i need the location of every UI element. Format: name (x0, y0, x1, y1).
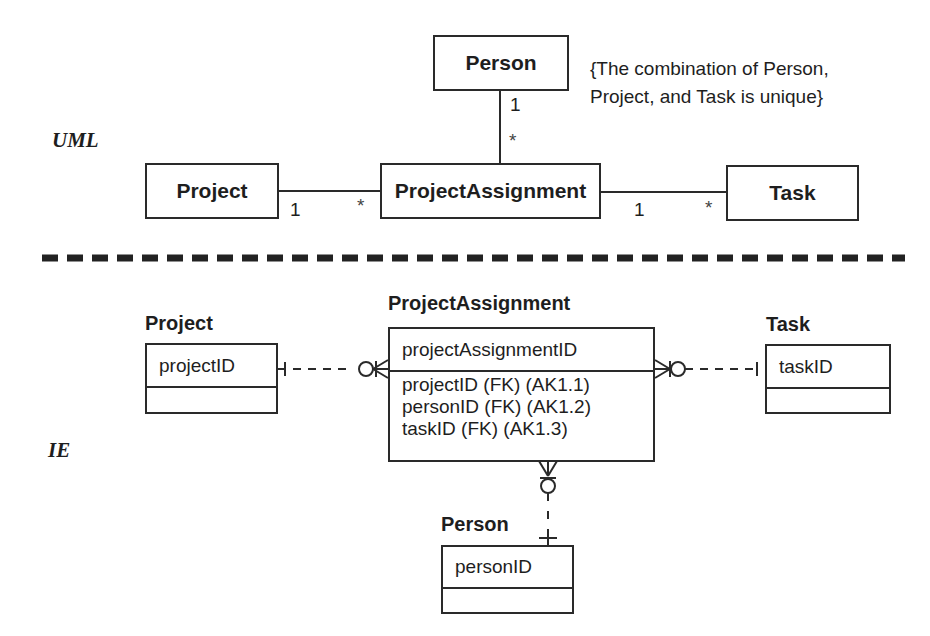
ie-project-assignment-entity[interactable]: projectAssignmentID projectID (FK) (AK1.… (388, 327, 655, 462)
ie-person-pk: personID (443, 547, 572, 589)
uml-constraint-note: {The combination of Person, Project, and… (590, 55, 829, 111)
uml-person-name: Person (465, 51, 536, 75)
ie-task-pk: taskID (767, 346, 889, 389)
ie-task-entity[interactable]: taskID (765, 344, 891, 414)
uml-person-class[interactable]: Person (433, 35, 569, 91)
uml-project-assignment-class[interactable]: ProjectAssignment (380, 163, 601, 219)
uml-project-class[interactable]: Project (145, 163, 279, 219)
ie-person-title: Person (441, 513, 509, 536)
uml-project-assignment-name: ProjectAssignment (395, 179, 586, 203)
uml-project-name: Project (176, 179, 247, 203)
mult-task-end: * (705, 197, 712, 219)
ie-task-title: Task (766, 313, 810, 336)
constraint-line-1: {The combination of Person, (590, 55, 829, 83)
mult-project-pa-end: * (357, 195, 364, 217)
diagram-canvas: UML IE Person Project ProjectAssignment … (0, 0, 930, 636)
mult-person-end: 1 (510, 94, 521, 116)
mult-pa-task-end: 1 (634, 199, 645, 221)
ie-project-assignment-pk: projectAssignmentID (390, 329, 653, 372)
uml-task-name: Task (769, 181, 815, 205)
ie-project-assignment-attributes: projectID (FK) (AK1.1) personID (FK) (AK… (390, 370, 653, 460)
ie-project-title: Project (145, 312, 213, 335)
mult-person-pa-end: * (509, 130, 516, 152)
uml-task-class[interactable]: Task (726, 165, 859, 221)
ie-person-entity[interactable]: personID (441, 545, 574, 614)
mult-project-end: 1 (290, 199, 301, 221)
constraint-line-2: Project, and Task is unique} (590, 83, 829, 111)
ie-pa-task-relationship (655, 360, 757, 378)
ie-project-entity[interactable]: projectID (145, 343, 278, 414)
ie-attr-person-id: personID (FK) (AK1.2) (402, 396, 653, 418)
ie-attr-task-id: taskID (FK) (AK1.3) (402, 418, 653, 440)
ie-project-assignment-title: ProjectAssignment (388, 292, 570, 315)
ie-project-pk: projectID (147, 345, 276, 388)
ie-project-pa-relationship (278, 360, 388, 378)
ie-attr-project-id: projectID (FK) (AK1.1) (402, 374, 653, 396)
ie-pa-person-relationship (539, 461, 557, 545)
uml-section-label: UML (52, 128, 99, 153)
ie-section-label: IE (48, 438, 70, 463)
